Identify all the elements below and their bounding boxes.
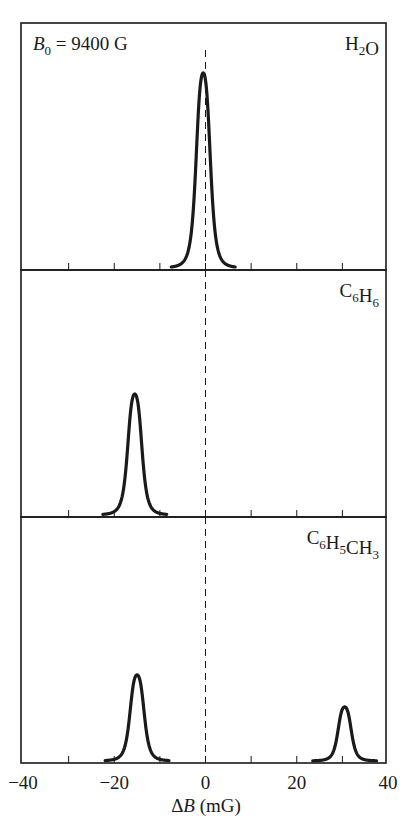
panel-frame [21, 270, 386, 517]
spectrum-panel: C6H5CH3 [21, 517, 386, 763]
x-tick-label: 0 [201, 772, 211, 793]
x-tick-label: −20 [99, 772, 129, 793]
x-axis: −40−2002040 [8, 772, 397, 793]
compound-label: C6H6 [340, 280, 380, 310]
compound-label: C6H5CH3 [307, 527, 379, 562]
spectrum-peak [313, 707, 377, 761]
compound-label: H2O [345, 33, 379, 59]
x-tick-label: 20 [287, 772, 306, 793]
spectrum-panel: H2O [21, 23, 386, 270]
spectrum-peak [103, 394, 167, 514]
panel-frame [21, 517, 386, 763]
x-axis-label: ΔB (mG) [171, 795, 241, 817]
field-strength-annotation: B0 = 9400 G [33, 33, 128, 58]
nmr-spectra-chart: H2OC6H6C6H5CH3B0 = 9400 G −40−2002040 ΔB… [0, 0, 412, 830]
spectrum-panel: C6H6 [21, 270, 386, 517]
x-tick-label: 40 [379, 772, 398, 793]
spectrum-peak [171, 73, 235, 267]
x-tick-label: −40 [8, 772, 38, 793]
panel-frame [21, 23, 386, 270]
spectra-panels: H2OC6H6C6H5CH3B0 = 9400 G [21, 23, 386, 763]
spectrum-peak [105, 675, 169, 761]
